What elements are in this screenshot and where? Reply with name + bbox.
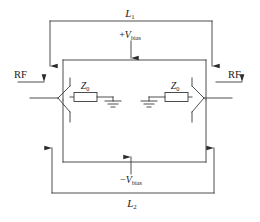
ground-right — [141, 97, 157, 107]
ground-left — [105, 97, 121, 107]
label-bias-positive-subscript: bias — [131, 34, 141, 41]
label-impedance-right: Z0 — [171, 81, 180, 92]
label-rf-output: RF — [228, 70, 241, 81]
label-rf-input: RF — [14, 70, 27, 81]
label-bias-negative: −Vbias — [120, 175, 142, 186]
label-bias-negative-subscript: bias — [132, 179, 142, 186]
label-l2-subscript: 2 — [133, 203, 136, 210]
figure-canvas: L1 L2 +Vbias −Vbias RF RF Z0 Z0 — [0, 0, 260, 222]
label-inductor-l1: L1 — [125, 8, 135, 21]
label-bias-positive: +Vbias — [119, 30, 141, 41]
rf-input-line — [30, 78, 70, 122]
label-z0-right-subscript: 0 — [176, 85, 179, 92]
label-inductor-l2: L2 — [127, 198, 137, 211]
label-z0-left-subscript: 0 — [86, 85, 89, 92]
label-impedance-left: Z0 — [81, 81, 90, 92]
bias-frame — [63, 60, 206, 162]
resistor-z0-right — [149, 93, 192, 102]
label-l1-subscript: 1 — [131, 13, 134, 20]
rf-output-line — [192, 78, 232, 122]
inductor-loop-l2 — [52, 148, 214, 193]
resistor-z0-left — [70, 93, 113, 102]
